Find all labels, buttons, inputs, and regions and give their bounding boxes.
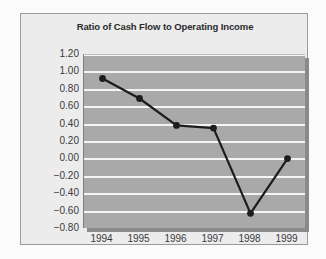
page-background: Ratio of Cash Flow to Operating Income 1… — [0, 0, 326, 259]
y-axis-tick-label: 0.40 — [39, 119, 79, 129]
data-point — [210, 125, 217, 132]
data-point — [99, 75, 106, 82]
y-axis-tick-label: 1.20 — [39, 49, 79, 59]
x-axis-tick-label: 1996 — [156, 233, 196, 245]
y-axis-tick-label: 0.60 — [39, 101, 79, 111]
data-series-line — [84, 55, 305, 228]
x-axis-tick-label: 1999 — [267, 233, 307, 245]
y-axis-tick-label: −0.60 — [39, 206, 79, 216]
line-path — [103, 78, 288, 213]
data-point — [247, 210, 254, 217]
y-axis-tick-labels: 1.201.000.800.600.400.200.00−0.20−0.40−0… — [37, 54, 79, 228]
x-axis-tick-label: 1995 — [119, 233, 159, 245]
data-point — [136, 95, 143, 102]
y-axis-tick-label: 0.80 — [39, 84, 79, 94]
x-axis-tick-labels: 199419951996199719981999 — [83, 233, 305, 249]
plot-area — [83, 54, 305, 228]
y-axis-tick-label: 0.20 — [39, 136, 79, 146]
x-axis-tick-label: 1997 — [193, 233, 233, 245]
y-axis-tick-label: −0.20 — [39, 171, 79, 181]
y-axis-tick-label: −0.80 — [39, 223, 79, 233]
y-axis-tick-label: −0.40 — [39, 188, 79, 198]
data-point — [284, 155, 291, 162]
y-axis-tick-label: 1.00 — [39, 66, 79, 76]
data-point — [173, 122, 180, 129]
chart-frame: Ratio of Cash Flow to Operating Income 1… — [20, 13, 308, 245]
chart-title: Ratio of Cash Flow to Operating Income — [21, 21, 309, 32]
x-axis-tick-label: 1994 — [82, 233, 122, 245]
x-axis-tick-label: 1998 — [230, 233, 270, 245]
y-axis-tick-label: 0.00 — [39, 153, 79, 163]
